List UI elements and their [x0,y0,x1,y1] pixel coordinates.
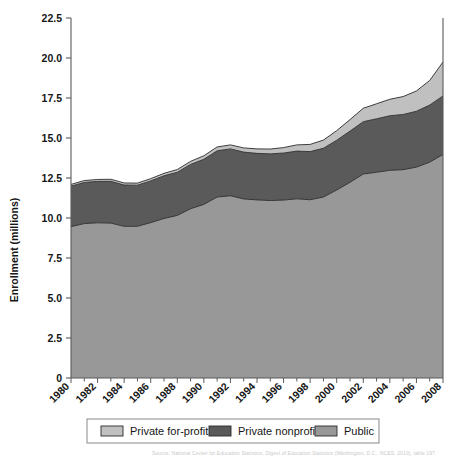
x-tick-label: 1984 [100,380,125,405]
chart-legend: Private for-profitPrivate nonprofitPubli… [87,419,379,443]
y-tick-label: 5.0 [47,292,62,304]
x-tick-label: 2006 [392,380,417,405]
x-tick-label: 1992 [206,380,231,405]
source-note: Source: National Center for Education St… [152,450,466,456]
x-tick-label: 1982 [73,380,98,405]
legend-swatch-private-nonprofit [209,426,231,436]
enrollment-area-chart: 02.55.07.510.012.515.017.520.022.5 19801… [0,0,466,462]
y-tick-label: 20.0 [42,52,63,64]
y-tick-label: 22.5 [42,12,63,24]
y-tick-label: 7.5 [47,252,62,264]
x-tick-label: 2008 [418,380,443,405]
x-tick-label: 1990 [179,380,204,405]
legend-swatch-public [315,426,337,436]
y-axis-title: Enrollment (millions) [8,198,20,302]
x-tick-label: 2000 [312,380,337,405]
x-tick-label: 1980 [46,380,71,405]
y-tick-label: 10.0 [42,212,63,224]
chart-figure: 02.55.07.510.012.515.017.520.022.5 19801… [0,0,466,462]
x-tick-label: 2004 [365,380,390,405]
x-tick-label: 2002 [339,380,364,405]
x-axis-ticks: 1980198219841986198819901992199419961998… [46,378,443,405]
legend-label-private-for-profit: Private for-profit [130,425,208,437]
y-tick-label: 17.5 [42,92,63,104]
legend-label-public: Public [344,425,374,437]
y-axis-ticks: 02.55.07.510.012.515.017.520.022.5 [42,12,71,384]
x-tick-label: 1988 [153,380,178,405]
x-tick-label: 1998 [286,380,311,405]
x-tick-label: 1994 [232,380,257,405]
y-tick-label: 15.0 [42,132,63,144]
y-tick-label: 12.5 [42,172,63,184]
x-tick-label: 1986 [126,380,151,405]
y-tick-label: 2.5 [47,332,62,344]
legend-label-private-nonprofit: Private nonprofit [238,425,318,437]
legend-swatch-private-for-profit [101,426,123,436]
x-tick-label: 1996 [259,380,284,405]
stacked-areas [71,62,443,378]
